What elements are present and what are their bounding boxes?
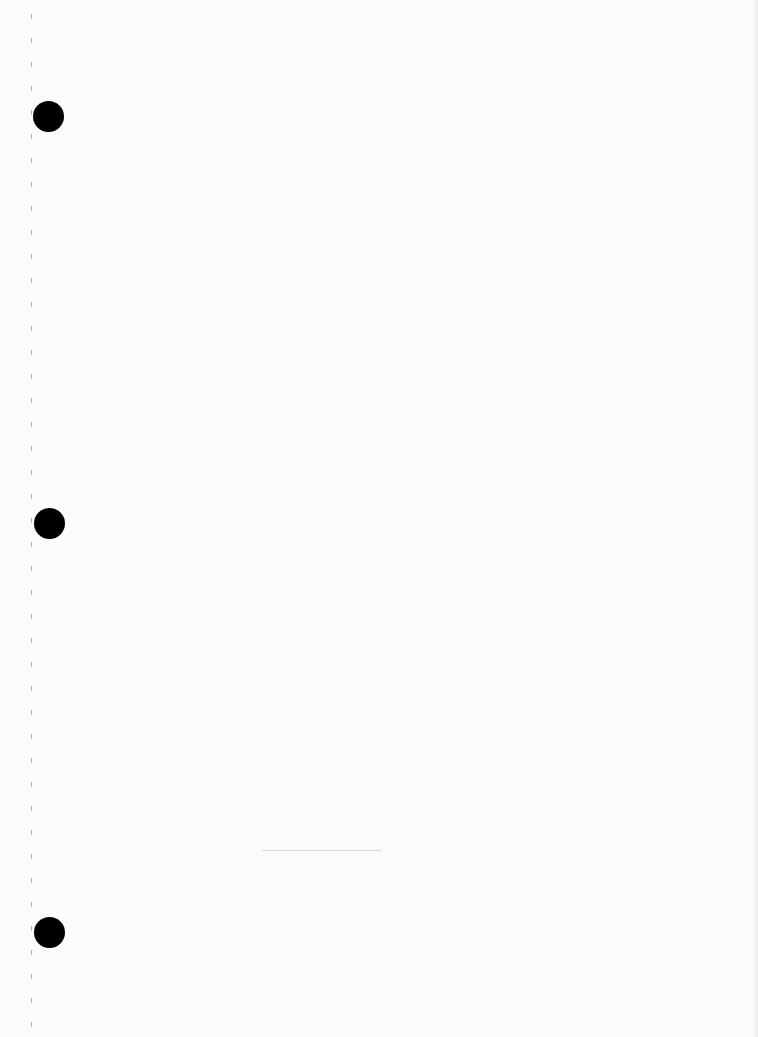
perforation-mark	[31, 686, 32, 691]
perforation-mark	[31, 134, 32, 139]
perforation-mark	[31, 854, 32, 859]
perforation-mark	[31, 542, 32, 547]
perforation-mark	[31, 206, 32, 211]
perforation-mark	[31, 998, 32, 1003]
perforation-mark	[31, 638, 32, 643]
perforated-edge	[31, 0, 33, 1037]
perforation-mark	[31, 14, 32, 19]
perforation-mark	[31, 518, 32, 523]
perforation-mark	[31, 86, 32, 91]
perforation-mark	[31, 446, 32, 451]
perforation-mark	[31, 590, 32, 595]
faint-pencil-line	[262, 850, 381, 851]
perforation-mark	[31, 110, 32, 115]
perforation-mark	[31, 974, 32, 979]
punch-hole-2	[34, 508, 65, 539]
perforation-mark	[31, 158, 32, 163]
perforation-mark	[31, 182, 32, 187]
perforation-mark	[31, 398, 32, 403]
perforation-mark	[31, 806, 32, 811]
perforation-mark	[31, 614, 32, 619]
perforation-mark	[31, 662, 32, 667]
perforation-mark	[31, 62, 32, 67]
perforation-mark	[31, 422, 32, 427]
perforation-mark	[31, 38, 32, 43]
perforation-mark	[31, 878, 32, 883]
perforation-mark	[31, 710, 32, 715]
perforation-mark	[31, 566, 32, 571]
perforation-mark	[31, 902, 32, 907]
perforation-mark	[31, 470, 32, 475]
perforation-mark	[31, 230, 32, 235]
perforation-mark	[31, 734, 32, 739]
notebook-page	[0, 0, 758, 1037]
perforation-mark	[31, 326, 32, 331]
perforation-mark	[31, 926, 32, 931]
perforation-mark	[31, 494, 32, 499]
perforation-mark	[31, 278, 32, 283]
perforation-mark	[31, 374, 32, 379]
perforation-mark	[31, 302, 32, 307]
perforation-mark	[31, 350, 32, 355]
perforation-mark	[31, 758, 32, 763]
punch-hole-1	[33, 101, 64, 132]
perforation-mark	[31, 782, 32, 787]
perforation-mark	[31, 830, 32, 835]
perforation-mark	[31, 254, 32, 259]
perforation-mark	[31, 950, 32, 955]
perforation-mark	[31, 1022, 32, 1027]
punch-hole-3	[34, 917, 65, 948]
